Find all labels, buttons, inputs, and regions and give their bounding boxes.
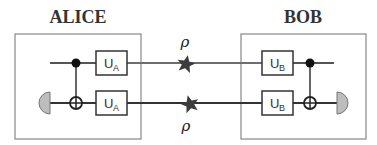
bob-gate-top: U B: [262, 51, 293, 75]
alice-gate-top: U A: [96, 51, 127, 75]
alice-box: [15, 34, 141, 139]
bob-title: BOB: [284, 7, 322, 27]
rho-label-bottom: ρ: [181, 117, 191, 135]
svg-text:U: U: [104, 56, 113, 71]
target-circle-plus-icon: [304, 97, 316, 109]
alice-gate-bottom: U A: [96, 91, 127, 115]
svg-text:B: B: [279, 103, 285, 113]
control-dot-icon: [72, 59, 81, 68]
bob-box: [241, 34, 366, 139]
alice-title: ALICE: [49, 7, 106, 27]
svg-text:B: B: [279, 63, 285, 73]
svg-text:U: U: [270, 96, 279, 111]
svg-text:U: U: [270, 56, 279, 71]
svg-text:A: A: [113, 103, 119, 113]
bob-gate-bottom: U B: [262, 91, 293, 115]
rho-label-top: ρ: [180, 33, 190, 51]
control-dot-icon: [306, 59, 315, 68]
target-circle-plus-icon: [70, 97, 82, 109]
svg-text:A: A: [113, 63, 119, 73]
purification-protocol-diagram: ALICE BOB U A U A U B U B: [0, 0, 377, 145]
svg-text:U: U: [104, 96, 113, 111]
